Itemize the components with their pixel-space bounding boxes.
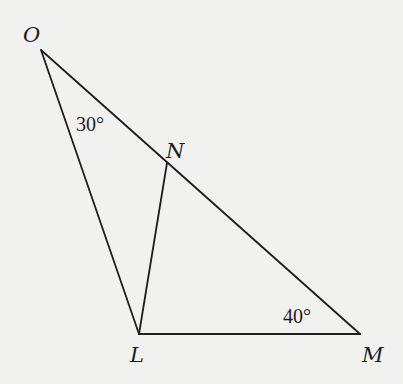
segment-om <box>41 50 360 334</box>
angle-label-m: 40° <box>283 305 311 327</box>
vertex-label-m: M <box>361 343 384 367</box>
vertex-label-l: L <box>129 343 144 367</box>
segment-ln <box>139 163 167 334</box>
diagram-canvas: O N L M 30° 40° <box>0 0 403 384</box>
vertex-label-n: N <box>165 139 185 163</box>
angle-label-o: 30° <box>76 113 104 135</box>
triangle-figure: O N L M 30° 40° <box>0 0 403 384</box>
vertex-label-o: O <box>23 23 40 47</box>
